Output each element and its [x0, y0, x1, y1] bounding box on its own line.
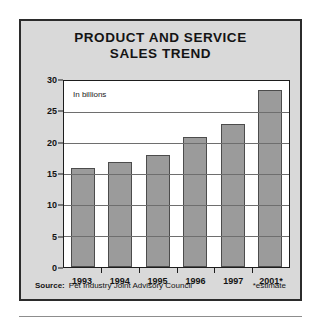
chart-screenshot: PRODUCT AND SERVICE SALES TREND In billi…	[0, 0, 321, 326]
source-text: Pet Industry Joint Advisory Council	[69, 281, 192, 290]
x-axis-tick-mark	[101, 268, 102, 273]
y-axis-tick-mark	[58, 205, 63, 206]
gridline	[64, 143, 289, 144]
plot-area: In billions	[63, 80, 290, 268]
plot-wrap: In billions 0510152025301993199419951996…	[63, 80, 290, 268]
x-axis-tick-mark	[177, 268, 178, 273]
y-axis-tick-mark	[58, 142, 63, 143]
source-label: Source:	[35, 281, 65, 290]
estimate-note: *estimate	[253, 281, 286, 290]
gridline	[64, 236, 289, 237]
y-axis-tick-mark	[58, 80, 63, 81]
x-axis-tick-mark	[214, 268, 215, 273]
y-axis-tick-label: 15	[47, 169, 57, 179]
chart-title-line-2: SALES TREND	[21, 46, 300, 62]
y-axis-tick-label: 10	[47, 200, 57, 210]
y-axis-tick-label: 20	[47, 138, 57, 148]
x-axis-tick-mark	[252, 268, 253, 273]
gridline	[64, 205, 289, 206]
chart-title: PRODUCT AND SERVICE SALES TREND	[21, 30, 300, 62]
gridline	[64, 112, 289, 113]
bar	[146, 155, 170, 267]
y-axis-tick-mark	[58, 268, 63, 269]
gridline	[64, 174, 289, 175]
figure-footer: Source: Pet Industry Joint Advisory Coun…	[35, 281, 286, 290]
y-axis-tick-label: 25	[47, 106, 57, 116]
bar	[221, 124, 245, 267]
y-axis-tick-label: 0	[52, 263, 57, 273]
y-axis-tick-mark	[58, 111, 63, 112]
bar	[183, 137, 207, 267]
bar	[258, 90, 282, 267]
y-axis-tick-mark	[58, 174, 63, 175]
bar	[108, 162, 132, 267]
chart-title-line-1: PRODUCT AND SERVICE	[21, 30, 300, 46]
x-axis-tick-mark	[139, 268, 140, 273]
bar	[71, 168, 95, 267]
figure-panel: PRODUCT AND SERVICE SALES TREND In billi…	[19, 19, 302, 301]
bottom-rule	[19, 316, 302, 317]
y-axis-tick-label: 5	[52, 232, 57, 242]
y-axis-tick-label: 30	[47, 75, 57, 85]
y-axis-tick-mark	[58, 236, 63, 237]
